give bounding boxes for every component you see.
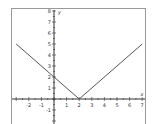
y-axis-label: y <box>57 9 62 16</box>
y-tick-label: 3 <box>48 63 51 69</box>
x-tick-label: 1 <box>65 102 68 108</box>
x-tick-label: 5 <box>115 102 118 108</box>
series-line <box>16 44 142 99</box>
x-tick-label: -1 <box>39 102 44 108</box>
x-tick-label: 2 <box>78 102 81 108</box>
y-tick-label: 1 <box>48 85 51 91</box>
x-tick-label: 6 <box>128 102 131 108</box>
y-tick-label: -1 <box>46 107 51 113</box>
chart-plot: -2-11234567-112345678xy <box>0 0 152 124</box>
x-tick-label: -2 <box>26 102 31 108</box>
x-tick-label: 3 <box>90 102 93 108</box>
x-tick-label: 4 <box>103 102 106 108</box>
y-tick-label: 8 <box>48 8 51 14</box>
y-tick-label: 7 <box>48 19 51 25</box>
y-tick-label: 2 <box>48 74 51 80</box>
x-axis-label: x <box>140 91 144 97</box>
y-tick-label: 6 <box>48 30 51 36</box>
y-tick-label: 4 <box>48 52 51 58</box>
x-tick-label: 7 <box>141 102 144 108</box>
y-tick-label: 5 <box>48 41 51 47</box>
